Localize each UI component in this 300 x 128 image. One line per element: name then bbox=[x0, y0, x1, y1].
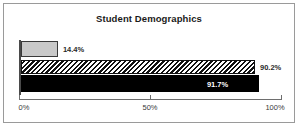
bar-row: 91.7% bbox=[21, 75, 281, 92]
plot-area: 14.4% 90.2% 91.7% bbox=[19, 40, 281, 95]
x-axis-tick-label: 100% bbox=[265, 103, 284, 112]
bar-row: 90.2% bbox=[21, 60, 281, 74]
x-axis-tick bbox=[19, 95, 20, 99]
x-axis-tick bbox=[281, 95, 282, 99]
bar-gray[interactable] bbox=[21, 41, 58, 57]
chart-title: Student Demographics bbox=[4, 13, 294, 24]
bar-row: 14.4% bbox=[21, 41, 281, 57]
chart-frame: Student Demographics 14.4% 90.2% 91.7% 0… bbox=[3, 3, 295, 123]
bar-value-label: 14.4% bbox=[63, 45, 84, 54]
x-axis-line bbox=[19, 99, 282, 100]
bar-value-label: 91.7% bbox=[207, 79, 228, 88]
x-axis-tick-label: 0% bbox=[19, 103, 30, 112]
bar-hatched[interactable] bbox=[21, 60, 256, 74]
bar-value-label: 90.2% bbox=[260, 63, 281, 72]
x-axis-tick-label: 50% bbox=[142, 103, 157, 112]
x-axis-tick bbox=[150, 95, 151, 99]
